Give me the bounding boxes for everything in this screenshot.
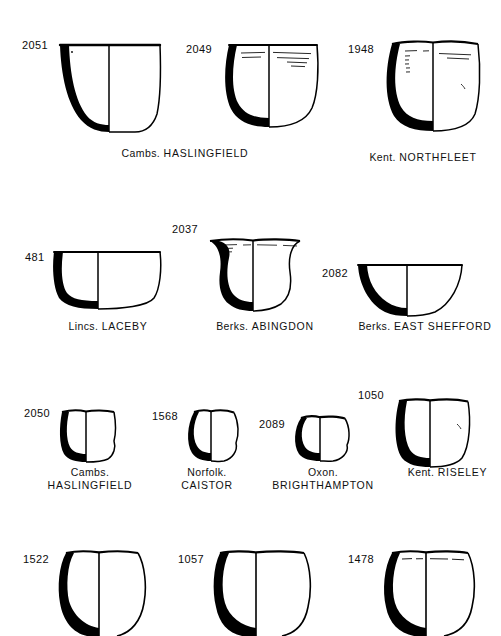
vessel-drawing-1568 [186, 409, 240, 463]
vessel-drawing-2051 [57, 42, 163, 140]
caption-2037: Berks. ABINGDON [190, 320, 340, 333]
caption-county-2050: Cambs. [35, 466, 145, 479]
caption-county-1948: Kent. [369, 151, 396, 163]
caption-site-1568: CAISTOR [157, 479, 257, 492]
catalogue-number-2089: 2089 [259, 419, 285, 430]
catalogue-number-1050: 1050 [358, 390, 384, 401]
vessel-drawing-1948 [383, 40, 483, 136]
pottery-profile-plate: 2051 2049 1948 [0, 0, 501, 636]
caption-county-2082: Berks. [358, 320, 390, 332]
caption-site-2082: EAST SHEFFORD [394, 320, 492, 332]
caption-site-1050: RISELEY [438, 466, 488, 478]
caption-site-2037: ABINGDON [252, 320, 314, 332]
caption-county-2051: Cambs. [122, 147, 161, 159]
catalogue-number-1478: 1478 [348, 554, 374, 565]
caption-site-481: LACEBY [102, 320, 148, 332]
caption-1948: Kent. NORTHFLEET [348, 151, 498, 164]
decoration-lines-2037 [222, 245, 297, 252]
decoration-lines-1478 [402, 559, 464, 560]
vessel-drawing-1478 [382, 549, 476, 636]
catalogue-number-1522: 1522 [23, 554, 49, 565]
vessel-drawing-1050 [393, 398, 473, 470]
vessel-drawing-2082 [355, 262, 465, 320]
caption-1568: Norfolk. CAISTOR [157, 466, 257, 492]
decoration-lines-2049 [241, 52, 311, 66]
catalogue-number-1568: 1568 [152, 411, 178, 422]
vessel-drawing-1057 [212, 549, 312, 636]
catalogue-number-2037: 2037 [172, 224, 198, 235]
caption-site-2089: BRIGHTHAMPTON [258, 479, 388, 492]
vessel-drawing-1522 [57, 549, 147, 636]
caption-2050: Cambs. HASLINGFIELD [35, 466, 145, 492]
catalogue-number-2051: 2051 [22, 40, 48, 51]
caption-2089: Oxon. BRIGHTHAMPTON [258, 466, 388, 492]
caption-county-1050: Kent. [408, 466, 435, 478]
catalogue-number-2082: 2082 [322, 268, 348, 279]
catalogue-number-2050: 2050 [24, 408, 50, 419]
vessel-drawing-2037 [205, 238, 305, 316]
vessel-drawing-2049 [221, 42, 321, 132]
caption-county-1568: Norfolk. [157, 466, 257, 479]
decoration-lines-1948 [405, 51, 471, 72]
caption-county-2037: Berks. [216, 320, 248, 332]
caption-1050: Kent. RISELEY [395, 466, 500, 479]
caption-site-1948: NORTHFLEET [399, 151, 476, 163]
catalogue-number-1057: 1057 [178, 554, 204, 565]
catalogue-number-481: 481 [25, 252, 45, 263]
caption-site-2051: HASLINGFIELD [164, 147, 249, 159]
vessel-drawing-2089 [293, 415, 351, 463]
catalogue-number-1948: 1948 [348, 44, 374, 55]
vessel-drawing-2050 [58, 409, 118, 465]
caption-county-2089: Oxon. [258, 466, 388, 479]
catalogue-number-2049: 2049 [186, 44, 212, 55]
vessel-drawing-481 [50, 249, 164, 314]
caption-site-2050: HASLINGFIELD [35, 479, 145, 492]
caption-county-481: Lincs. [68, 320, 98, 332]
caption-481: Lincs. LACEBY [33, 320, 183, 333]
caption-2051: Cambs. HASLINGFIELD [85, 147, 285, 160]
caption-2082: Berks. EAST SHEFFORD [345, 320, 501, 333]
